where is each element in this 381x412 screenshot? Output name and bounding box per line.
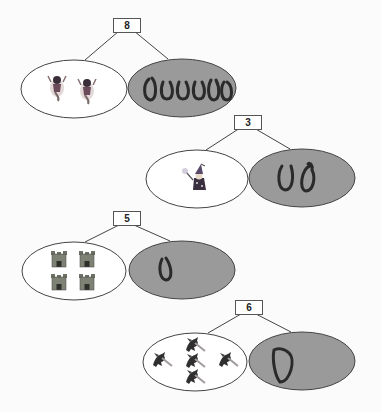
total-value: 8 <box>124 20 130 31</box>
total-box-4: 6 <box>235 300 263 315</box>
part-left-ellipse <box>22 242 126 300</box>
group-2 <box>146 128 355 208</box>
group-4 <box>143 314 355 391</box>
castle-icon <box>51 274 67 290</box>
total-box-2: 3 <box>234 115 262 130</box>
group-1 <box>21 31 236 118</box>
part-right-ellipse <box>129 241 235 299</box>
castle-icon <box>51 251 67 267</box>
group-3 <box>22 225 235 300</box>
part-right-ellipse <box>249 332 355 390</box>
part-left-ellipse <box>21 60 127 118</box>
castle-icon <box>79 274 95 290</box>
total-value: 5 <box>124 213 130 224</box>
total-value: 3 <box>245 117 251 128</box>
total-box-3: 5 <box>113 211 141 226</box>
total-box-1: 8 <box>113 18 141 33</box>
total-value: 6 <box>246 302 252 313</box>
castle-icon <box>79 251 95 267</box>
part-whole-diagram <box>0 0 381 412</box>
